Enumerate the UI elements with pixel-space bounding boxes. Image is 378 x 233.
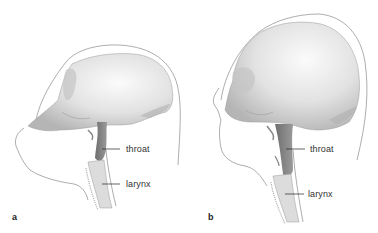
- throat-tube: [95, 122, 107, 161]
- panel-letter-a: a: [12, 213, 17, 222]
- larynx-trachea: [273, 174, 299, 222]
- panel-a: throat larynx a: [0, 0, 190, 233]
- throat-tube: [275, 124, 293, 177]
- larynx-label-b: larynx: [308, 190, 333, 199]
- face-outline: [15, 128, 88, 200]
- throat-label-b: throat: [310, 145, 334, 154]
- skull: [28, 53, 173, 130]
- larynx-label-a: larynx: [126, 180, 151, 189]
- human-head-illustration: [189, 0, 378, 233]
- panel-letter-b: b: [208, 213, 214, 222]
- primate-head-illustration: [0, 0, 190, 233]
- panel-b: throat larynx b: [189, 0, 378, 233]
- vocal-tract-comparison-figure: throat larynx a: [0, 0, 378, 233]
- throat-label-a: throat: [126, 145, 150, 154]
